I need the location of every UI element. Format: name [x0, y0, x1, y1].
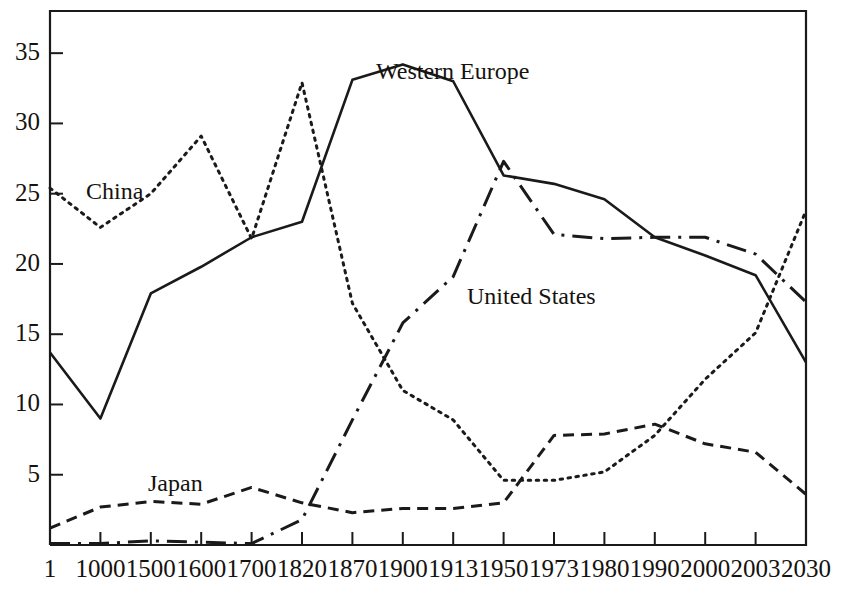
- series-label-united-states: United States: [467, 283, 596, 310]
- x-axis-label-1980: 1980: [576, 555, 632, 583]
- x-axis-label-2000: 2000: [677, 555, 733, 583]
- chart-plot-area: [0, 0, 843, 597]
- x-axis-label-1990: 1990: [627, 555, 683, 583]
- x-axis-label-1973: 1973: [526, 555, 582, 583]
- x-axis-label-1: 1: [22, 555, 78, 583]
- x-axis-label-1700: 1700: [224, 555, 280, 583]
- x-axis-label-1500: 1500: [123, 555, 179, 583]
- x-axis-label-1870: 1870: [324, 555, 380, 583]
- chart-container: 3530252015105 11000150016001700182018701…: [0, 0, 843, 597]
- series-label-japan: Japan: [148, 470, 203, 497]
- x-axis-label-2030: 2030: [778, 555, 834, 583]
- x-axis-label-1820: 1820: [274, 555, 330, 583]
- series-label-western-europe: Western Europe: [376, 58, 529, 85]
- x-axis-label-1950: 1950: [476, 555, 532, 583]
- plot-frame: [50, 11, 806, 545]
- series-line-china: [50, 83, 806, 481]
- series-line-western-europe: [50, 64, 806, 418]
- y-axis-label-25: 25: [0, 179, 40, 207]
- y-axis-label-5: 5: [0, 460, 40, 488]
- y-axis-label-10: 10: [0, 389, 40, 417]
- x-axis-label-1913: 1913: [425, 555, 481, 583]
- y-axis-label-20: 20: [0, 249, 40, 277]
- y-axis-label-30: 30: [0, 108, 40, 136]
- y-axis-label-15: 15: [0, 319, 40, 347]
- series-label-china: China: [86, 178, 143, 205]
- x-axis-label-1600: 1600: [173, 555, 229, 583]
- x-axis-label-1900: 1900: [375, 555, 431, 583]
- x-axis-label-2003: 2003: [728, 555, 784, 583]
- y-axis-label-35: 35: [0, 38, 40, 66]
- x-axis-label-1000: 1000: [72, 555, 128, 583]
